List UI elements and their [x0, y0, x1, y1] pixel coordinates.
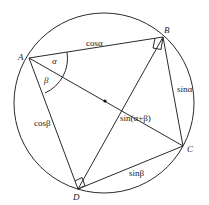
vertex-label-d: D [72, 192, 80, 202]
label-sin-alpha: sinα [177, 84, 193, 94]
circumcircle [14, 13, 194, 193]
vertex-label-b: B [164, 25, 170, 35]
label-cos-beta: cosβ [34, 118, 51, 128]
ptolemy-diagram: A B C D α β cosα sinα sin(α+β) cosβ sinβ [0, 0, 209, 205]
vertex-label-a: A [17, 52, 24, 62]
angle-label-beta: β [43, 75, 49, 85]
label-cos-alpha: cosα [86, 38, 103, 48]
vertex-label-c: C [187, 144, 194, 154]
angle-label-alpha: α [52, 56, 57, 66]
center-dot [103, 99, 106, 102]
label-sin-alpha-plus-beta: sin(α+β) [120, 113, 151, 123]
label-sin-beta: sinβ [129, 168, 145, 178]
